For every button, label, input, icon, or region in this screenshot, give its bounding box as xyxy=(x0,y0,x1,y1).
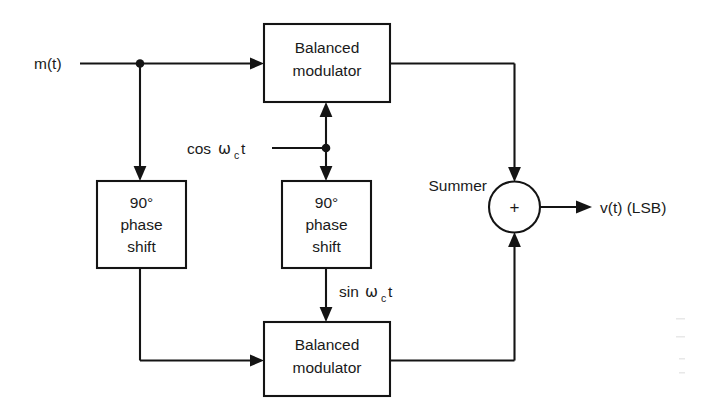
balanced-modulator-top-line1: Balanced xyxy=(295,39,360,56)
arrowhead-top-modulator-input xyxy=(250,58,264,70)
arrowhead-output xyxy=(576,201,592,214)
label-output-signal: v(t) (LSB) xyxy=(600,199,666,216)
label-input-message: m(t) xyxy=(34,55,62,72)
scan-artifact xyxy=(679,358,685,360)
arrowhead-top-modulator-carrier-input xyxy=(320,102,333,117)
balanced-modulator-bottom-line1: Balanced xyxy=(295,336,360,353)
phase-shift-left-line1: 90° xyxy=(130,194,153,211)
label-carrier-cos-omega: ω xyxy=(218,140,231,158)
arrowhead-summer-bottom-input xyxy=(508,232,521,247)
diagram-canvas: Balanced modulator Balanced modulator 90… xyxy=(0,0,703,402)
scan-artifact xyxy=(676,318,685,320)
phase-shift-left-line3: shift xyxy=(127,238,156,255)
phase-shift-left-line2: phase xyxy=(120,216,162,233)
scan-artifact xyxy=(676,336,685,338)
arrowhead-summer-top-input xyxy=(508,167,521,182)
phase-shift-middle-line1: 90° xyxy=(315,194,338,211)
scan-artifact xyxy=(679,372,685,374)
block-diagram: Balanced modulator Balanced modulator 90… xyxy=(0,0,703,402)
label-carrier-sin-prefix: sin xyxy=(339,283,359,300)
label-carrier-sin-subscript: c xyxy=(381,292,386,304)
balanced-modulator-bottom-line2: modulator xyxy=(293,359,362,376)
phase-shift-middle-line3: shift xyxy=(312,238,341,255)
label-carrier-sin: sin ω c t xyxy=(339,283,393,304)
label-carrier-sin-omega: ω xyxy=(365,283,378,301)
arrowhead-middle-phase-shift-input xyxy=(320,166,333,181)
label-carrier-cos: cos ω c t xyxy=(187,140,246,161)
arrowhead-bottom-modulator-carrier-input xyxy=(320,307,333,322)
label-carrier-cos-subscript: c xyxy=(234,149,239,161)
label-carrier-cos-prefix: cos xyxy=(187,140,211,157)
label-carrier-sin-suffix: t xyxy=(388,283,393,300)
summer-plus-symbol: + xyxy=(510,198,520,217)
label-carrier-cos-suffix: t xyxy=(241,140,246,157)
balanced-modulator-top-line2: modulator xyxy=(293,62,362,79)
arrowhead-bottom-modulator-input xyxy=(250,355,264,367)
arrowhead-left-phase-shift-input xyxy=(134,166,147,181)
summer-label: Summer xyxy=(428,177,487,194)
phase-shift-middle-line2: phase xyxy=(305,216,347,233)
